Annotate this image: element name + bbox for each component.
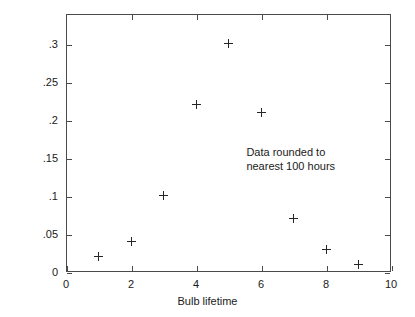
data-point-marker [289, 214, 298, 223]
x-axis-title: Bulb lifetime [0, 296, 415, 307]
y-tick-right [385, 197, 390, 198]
y-tick-right [385, 83, 390, 84]
y-axis-title: Probability [9, 0, 23, 14]
y-tick-right [385, 121, 390, 122]
y-tick-label: .05 [12, 229, 58, 240]
x-tick-top [197, 15, 198, 20]
scatter-chart-figure: 0.05.1.15.2.25.30246810 Probability Bulb… [0, 0, 415, 317]
data-point-marker [159, 191, 168, 200]
y-tick-label: .3 [12, 39, 58, 50]
data-point-marker [257, 108, 266, 117]
y-tick-left [67, 273, 72, 274]
x-tick-bottom [327, 266, 328, 271]
y-tick-left [67, 235, 72, 236]
data-point-marker [322, 245, 331, 254]
x-tick-label: 0 [46, 279, 86, 290]
chart-annotation: Data rounded to nearest 100 hours [246, 145, 335, 173]
y-tick-left [67, 197, 72, 198]
y-tick-right [385, 235, 390, 236]
x-tick-label: 6 [241, 279, 281, 290]
x-tick-bottom [392, 266, 393, 271]
data-point-marker [127, 237, 136, 246]
x-tick-label: 8 [306, 279, 346, 290]
x-tick-bottom [67, 266, 68, 271]
x-tick-top [327, 15, 328, 20]
plot-area [66, 14, 391, 272]
x-tick-bottom [197, 266, 198, 271]
y-tick-left [67, 121, 72, 122]
y-tick-right [385, 45, 390, 46]
y-tick-left [67, 83, 72, 84]
y-tick-right [385, 273, 390, 274]
data-point-marker [94, 252, 103, 261]
x-tick-bottom [262, 266, 263, 271]
y-tick-label: .15 [12, 153, 58, 164]
x-tick-bottom [132, 266, 133, 271]
x-tick-label: 4 [176, 279, 216, 290]
y-tick-left [67, 45, 72, 46]
y-tick-right [385, 159, 390, 160]
y-tick-label: .1 [12, 191, 58, 202]
data-point-marker [224, 39, 233, 48]
data-point-marker [192, 100, 201, 109]
y-tick-left [67, 159, 72, 160]
x-tick-top [262, 15, 263, 20]
x-tick-label: 10 [371, 279, 411, 290]
data-point-marker [354, 260, 363, 269]
y-tick-label: 0 [12, 267, 58, 278]
x-tick-top [132, 15, 133, 20]
x-tick-label: 2 [111, 279, 151, 290]
y-tick-label: .25 [12, 77, 58, 88]
y-tick-label: .2 [12, 115, 58, 126]
